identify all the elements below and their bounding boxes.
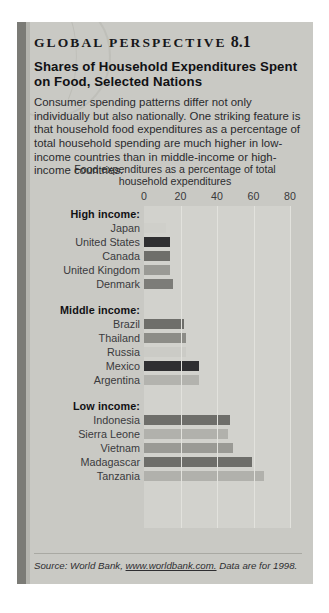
figure-kicker: GLOBAL PERSPECTIVE8.1 (34, 33, 307, 51)
bar (144, 443, 233, 453)
figure-panel: GLOBAL PERSPECTIVE8.1 Shares of Househol… (17, 22, 313, 584)
bar-track (144, 427, 307, 441)
panel-content: GLOBAL PERSPECTIVE8.1 Shares of Househol… (34, 22, 307, 178)
country-label: United Kingdom (34, 264, 144, 276)
country-label: Denmark (34, 278, 144, 290)
bar-row: Thailand (34, 331, 307, 345)
bar-track (144, 455, 307, 469)
x-axis-ticks: 020406080 (34, 190, 307, 204)
gridline-20 (181, 206, 182, 528)
bar-track (144, 263, 307, 277)
bar (144, 279, 173, 289)
x-tick-80: 80 (284, 190, 296, 202)
bar (144, 319, 184, 329)
country-label: Canada (34, 250, 144, 262)
bar-row: Argentina (34, 373, 307, 387)
panel-left-spine-lite (26, 22, 30, 584)
group-heading: Middle income: (34, 302, 307, 317)
bar-track (144, 317, 307, 331)
group-heading: Low income: (34, 398, 307, 413)
source-suffix: Data are for 1998. (217, 560, 298, 571)
kicker-text: GLOBAL PERSPECTIVE (34, 35, 227, 50)
figure-title: Shares of Household Expenditures Spent o… (34, 60, 302, 89)
bar-track (144, 345, 307, 359)
bar (144, 265, 170, 275)
bar-row: Japan (34, 221, 307, 235)
country-label: United States (34, 236, 144, 248)
gridline-80 (290, 206, 291, 528)
bar (144, 223, 166, 233)
country-label: Tanzania (34, 470, 144, 482)
bar-track (144, 373, 307, 387)
bar-row: Brazil (34, 317, 307, 331)
bar (144, 237, 170, 247)
panel-left-spine (17, 22, 26, 584)
x-tick-20: 20 (175, 190, 187, 202)
x-tick-40: 40 (211, 190, 223, 202)
bar (144, 361, 199, 371)
country-label: Indonesia (34, 414, 144, 426)
figure-number: 8.1 (231, 33, 251, 50)
global-perspective-figure: GLOBAL PERSPECTIVE8.1 Shares of Househol… (0, 0, 329, 613)
x-tick-60: 60 (248, 190, 260, 202)
country-label: Japan (34, 222, 144, 234)
bar-track (144, 221, 307, 235)
bar-track (144, 441, 307, 455)
bar-row: Denmark (34, 277, 307, 291)
country-label: Russia (34, 346, 144, 358)
bar-chart: Food expenditures as a percentage of tot… (34, 164, 307, 532)
bar-track (144, 277, 307, 291)
source-divider (34, 553, 302, 554)
gridline-40 (217, 206, 218, 528)
group-label: Middle income: (34, 304, 144, 316)
chart-axis-title: Food expenditures as a percentage of tot… (70, 164, 280, 188)
country-label: Thailand (34, 332, 144, 344)
country-label: Argentina (34, 374, 144, 386)
bar-row: Mexico (34, 359, 307, 373)
source-link[interactable]: www.worldbank.com. (126, 560, 217, 571)
bar-row: Canada (34, 249, 307, 263)
bar-track (144, 235, 307, 249)
chart-plot-area: High income:JapanUnited StatesCanadaUnit… (34, 206, 307, 528)
chart-rows: High income:JapanUnited StatesCanadaUnit… (34, 206, 307, 483)
bar-track (144, 413, 307, 427)
source-note: Source: World Bank, www.worldbank.com. D… (34, 560, 297, 571)
bar (144, 471, 264, 481)
country-label: Sierra Leone (34, 428, 144, 440)
gridline-60 (254, 206, 255, 528)
bar (144, 251, 170, 261)
bar-track (144, 469, 307, 483)
country-label: Mexico (34, 360, 144, 372)
source-prefix: Source: World Bank, (34, 560, 126, 571)
group-label: High income: (34, 208, 144, 220)
bar-row: Tanzania (34, 469, 307, 483)
country-label: Vietnam (34, 442, 144, 454)
bar-track (144, 331, 307, 345)
group-spacer (34, 387, 307, 398)
group-label: Low income: (34, 400, 144, 412)
bar-row: United States (34, 235, 307, 249)
bar (144, 457, 252, 467)
bar (144, 429, 228, 439)
bar-row: United Kingdom (34, 263, 307, 277)
bar (144, 375, 199, 385)
bar-row: Madagascar (34, 455, 307, 469)
bar-row: Russia (34, 345, 307, 359)
group-heading: High income: (34, 206, 307, 221)
country-label: Brazil (34, 318, 144, 330)
bar-row: Vietnam (34, 441, 307, 455)
bar-track (144, 249, 307, 263)
x-tick-0: 0 (141, 190, 147, 202)
group-spacer (34, 291, 307, 302)
bar-track (144, 359, 307, 373)
bar-row: Sierra Leone (34, 427, 307, 441)
country-label: Madagascar (34, 456, 144, 468)
bar-row: Indonesia (34, 413, 307, 427)
